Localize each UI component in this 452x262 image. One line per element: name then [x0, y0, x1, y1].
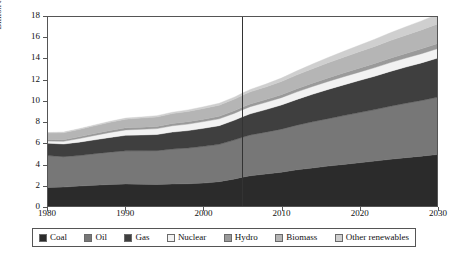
x-tick-mark: [203, 207, 204, 211]
chart-legend: CoalOilGasNuclearHydroBiomassOther renew…: [32, 228, 416, 247]
x-tick-mark: [360, 207, 361, 211]
legend-item-label: Biomass: [286, 233, 317, 242]
legend-item-label: Coal: [50, 233, 67, 242]
legend-item-label: Other renewables: [346, 233, 409, 242]
legend-swatch-icon: [124, 234, 132, 242]
y-axis-title: Billion tonnes of oil equivalent: [0, 0, 3, 60]
legend-item-label: Oil: [95, 233, 107, 242]
x-tick-mark: [438, 207, 439, 211]
legend-item-nuclear[interactable]: Nuclear: [167, 233, 206, 242]
y-tick-label: 12: [18, 75, 40, 84]
legend-swatch-icon: [335, 234, 343, 242]
legend-item-label: Gas: [135, 233, 149, 242]
y-tick-label: 18: [18, 11, 40, 20]
legend-swatch-icon: [84, 234, 92, 242]
x-tick-mark: [282, 207, 283, 211]
legend-swatch-icon: [224, 234, 232, 242]
legend-swatch-icon: [39, 234, 47, 242]
y-tick-label: 16: [18, 32, 40, 41]
legend-item-biomass[interactable]: Biomass: [275, 233, 317, 242]
y-tick-label: 6: [18, 138, 40, 147]
y-tick-label: 14: [18, 53, 40, 62]
plot-area: [47, 16, 438, 207]
legend-item-coal[interactable]: Coal: [39, 233, 67, 242]
x-tick-mark: [47, 207, 48, 211]
legend-item-label: Nuclear: [178, 233, 206, 242]
y-tick-label: 4: [18, 160, 40, 169]
legend-swatch-icon: [275, 234, 283, 242]
legend-item-other-renewables[interactable]: Other renewables: [335, 233, 409, 242]
x-tick-label: 2030: [418, 209, 452, 218]
legend-item-oil[interactable]: Oil: [84, 233, 107, 242]
legend-item-label: Hydro: [235, 233, 258, 242]
y-tick-label: 2: [18, 181, 40, 190]
legend-item-gas[interactable]: Gas: [124, 233, 149, 242]
legend-item-hydro[interactable]: Hydro: [224, 233, 258, 242]
stacked-area-plot: [48, 17, 437, 206]
y-tick-label: 10: [18, 96, 40, 105]
legend-swatch-icon: [167, 234, 175, 242]
y-tick-label: 8: [18, 117, 40, 126]
x-tick-mark: [125, 207, 126, 211]
